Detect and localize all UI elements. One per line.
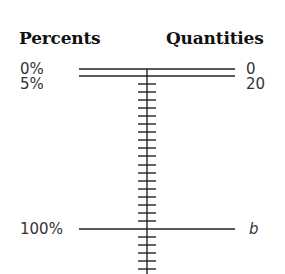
percent-bar-diagram [0,0,285,274]
